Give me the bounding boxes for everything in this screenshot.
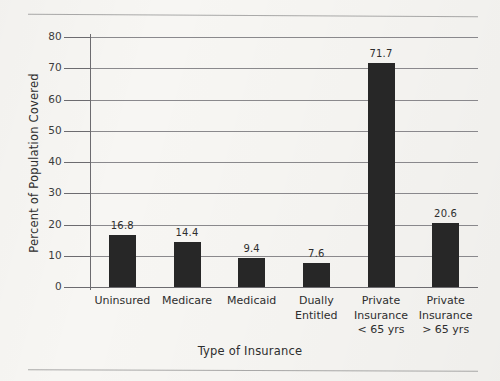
y-axis-tick — [64, 131, 90, 132]
y-axis-tick-label: 10 — [40, 249, 62, 261]
plot-area — [90, 37, 478, 287]
bar — [432, 223, 459, 287]
bar-value-label: 16.8 — [111, 220, 134, 231]
y-axis-tick-label: 80 — [40, 30, 62, 42]
y-axis-title: Percent of Population Covered — [27, 63, 41, 263]
bar — [368, 63, 395, 287]
y-axis-tick — [64, 100, 90, 101]
y-axis-tick — [64, 37, 90, 38]
y-axis-tick-label: 40 — [40, 155, 62, 167]
x-axis-category-label: Private Insurance > 65 yrs — [406, 294, 485, 338]
y-axis-tick — [64, 193, 90, 194]
y-axis-tick — [64, 68, 90, 69]
bar — [109, 235, 136, 288]
y-axis-tick — [64, 162, 90, 163]
bar — [238, 258, 265, 287]
bar — [174, 242, 201, 287]
y-axis-tick — [64, 225, 90, 226]
y-axis-tick-label: 70 — [40, 61, 62, 73]
bar-chart: Percent of Population Covered 0102030405… — [0, 0, 500, 381]
y-axis-tick — [64, 256, 90, 257]
bar-value-label: 71.7 — [369, 48, 392, 59]
bar-value-label: 7.6 — [308, 248, 325, 259]
y-axis-tick-label: 20 — [40, 218, 62, 230]
y-axis-tick-label: 50 — [40, 124, 62, 136]
x-axis-line — [64, 287, 478, 288]
y-axis-tick-label: 30 — [40, 186, 62, 198]
page-background: Percent of Population Covered 0102030405… — [0, 0, 500, 381]
bar-value-label: 20.6 — [434, 208, 457, 219]
bar — [303, 263, 330, 287]
x-axis-title: Type of Insurance — [0, 344, 500, 358]
y-axis-tick-label: 60 — [40, 93, 62, 105]
bar-value-label: 9.4 — [243, 243, 260, 254]
bar-value-label: 14.4 — [175, 227, 198, 238]
y-axis-tick-label: 0 — [40, 280, 62, 292]
